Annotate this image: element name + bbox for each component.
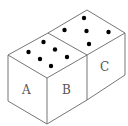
top-divider (48, 33, 87, 55)
left-die-top-dots (26, 40, 69, 68)
face-label-c: C (100, 60, 109, 74)
dice-diagram: A B C (0, 0, 128, 126)
face-label-b: B (62, 83, 71, 97)
face-label-a: A (21, 83, 31, 97)
